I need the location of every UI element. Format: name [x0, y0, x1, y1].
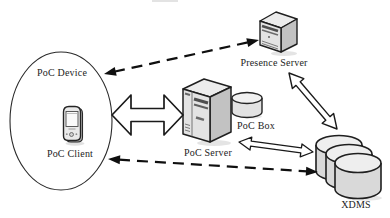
- edge-poc-device-presence-server: [104, 38, 259, 76]
- label-poc-server: PoC Server: [184, 147, 232, 158]
- label-presence-server: Presence Server: [240, 57, 307, 68]
- label-poc-box: PoC Box: [237, 120, 275, 131]
- stacked-databases-icon-xdms: [316, 136, 382, 201]
- arrowhead: [246, 38, 259, 47]
- diagram-canvas: PoC Device PoC Client PoC Server PoC Box…: [0, 0, 390, 218]
- tower-server-icon-poc-server: [183, 79, 231, 146]
- edge-poc-server-xdms: [239, 137, 313, 157]
- edge-poc-client-xdms: [108, 155, 318, 176]
- arrowhead: [108, 155, 120, 164]
- arrowhead: [104, 67, 117, 76]
- edge-poc-device-poc-server: [112, 95, 183, 135]
- label-xdms: XDMS: [341, 199, 371, 210]
- pda-phone-icon: [64, 107, 85, 146]
- database-cylinder-icon-poc-box: [232, 93, 262, 119]
- tower-server-icon-presence-server: [260, 12, 297, 56]
- xdms-cylinder-front: [335, 154, 381, 199]
- diagram-shapes: [0, 0, 390, 218]
- label-poc-client: PoC Client: [47, 148, 93, 159]
- edge-presence-server-xdms: [289, 73, 337, 129]
- label-poc-device: PoC Device: [37, 67, 87, 78]
